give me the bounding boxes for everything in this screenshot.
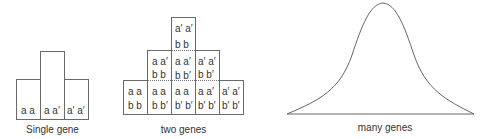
many-genes-label: many genes (330, 122, 440, 133)
normal-curve (0, 0, 490, 139)
